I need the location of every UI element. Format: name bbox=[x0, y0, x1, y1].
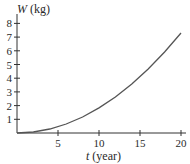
chart: 5101520 12345678 W(kg) t(year) bbox=[0, 0, 190, 164]
x-tick-label: 5 bbox=[55, 137, 61, 149]
y-tick-label: 7 bbox=[7, 31, 13, 43]
y-tick-label: 1 bbox=[7, 113, 13, 125]
x-tick-label: 20 bbox=[176, 137, 188, 149]
x-axis-label: t(year) bbox=[86, 149, 121, 163]
x-tick-label: 10 bbox=[94, 137, 106, 149]
y-tick-label: 6 bbox=[7, 45, 13, 57]
y-tick-label: 2 bbox=[7, 100, 13, 112]
x-tick-label: 15 bbox=[135, 137, 147, 149]
y-tick-label: 5 bbox=[7, 59, 13, 71]
y-tick-label: 3 bbox=[7, 86, 13, 98]
axes bbox=[17, 14, 186, 133]
data-curve bbox=[17, 33, 181, 133]
y-tick-label: 4 bbox=[7, 72, 13, 84]
y-axis-label: W(kg) bbox=[17, 2, 50, 16]
y-ticks: 12345678 bbox=[7, 17, 21, 125]
y-tick-label: 8 bbox=[7, 17, 13, 29]
